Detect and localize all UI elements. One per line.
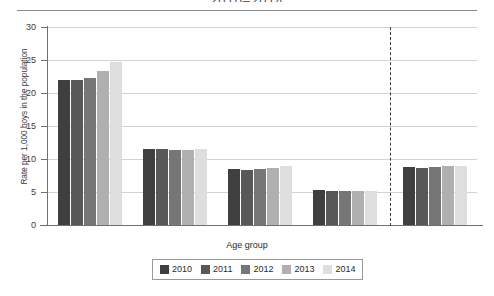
legend-label: 2010 [172,265,192,274]
bar [97,71,109,225]
bar [254,169,266,225]
bar [143,149,155,225]
y-tick-label: 30 [8,23,36,32]
bar-cluster [143,27,207,225]
bar [228,169,240,225]
y-tick-label: 20 [8,89,36,98]
legend-swatch [323,265,332,274]
legend-item[interactable]: 2014 [323,265,355,274]
y-tick-mark [41,27,47,28]
bar-cluster [228,27,292,225]
bar [403,167,415,225]
legend-item[interactable]: 2013 [282,265,314,274]
bar [84,78,96,225]
y-tick-label: 10 [8,155,36,164]
bar [339,191,351,225]
y-tick-mark [41,60,47,61]
y-axis-line [47,26,48,226]
bar [182,150,194,225]
legend-item[interactable]: 2012 [241,265,273,274]
bar [313,190,325,225]
bar-cluster [313,27,377,225]
legend-swatch [282,265,291,274]
legend-label: 2012 [253,265,273,274]
y-tick-mark [41,225,47,226]
bar [267,168,279,225]
bar-group [143,27,207,225]
bar [156,149,168,225]
legend-label: 2014 [335,265,355,274]
legend-swatch [160,265,169,274]
bar-group [313,27,377,225]
bar-group [228,27,292,225]
bar [110,62,122,225]
chart-figure: 2010–2014 Rate per 1,000 boys in the pop… [0,0,494,296]
y-tick-mark [41,159,47,160]
y-tick-mark [41,93,47,94]
total-group-separator [390,27,391,226]
legend-item[interactable]: 2011 [201,265,232,274]
chart-legend: 20102011201220132014 [152,259,363,280]
bar-group [403,27,467,225]
bar [442,166,454,225]
legend-label: 2011 [213,265,232,274]
bar [416,168,428,225]
y-tick-label: 0 [8,221,36,230]
legend-item[interactable]: 2010 [160,265,192,274]
y-tick-mark [41,126,47,127]
bar [241,170,253,225]
bar [429,167,441,225]
bar [195,149,207,225]
legend-swatch [201,265,210,274]
bar [280,166,292,225]
bar-group [58,27,122,225]
y-tick-label: 25 [8,56,36,65]
bar [365,191,377,225]
bar [71,80,83,225]
y-tick-label: 15 [8,122,36,131]
bar-cluster [403,27,467,225]
x-axis-line [40,225,483,226]
bar [326,191,338,225]
x-axis-label: Age group [0,240,494,250]
y-tick-label: 5 [8,188,36,197]
bar [455,166,467,225]
bar [352,191,364,225]
legend-swatch [241,265,250,274]
y-axis-label: Rate per 1,000 boys in the population [20,17,29,217]
chart-title: 2010–2014 [0,0,494,2]
bar [169,150,181,225]
y-tick-mark [41,192,47,193]
bar [58,80,70,225]
legend-label: 2013 [294,265,314,274]
bar-cluster [58,27,122,225]
title-divider [17,10,477,11]
